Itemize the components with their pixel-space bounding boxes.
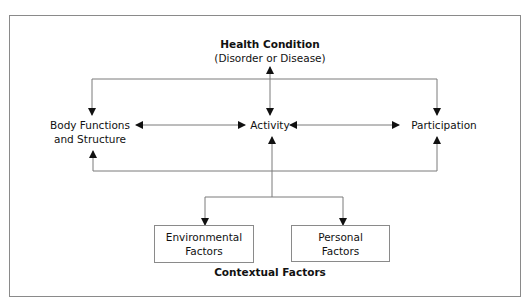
personal-factors-line1: Personal bbox=[318, 230, 363, 244]
health-condition-subtitle: (Disorder or Disease) bbox=[200, 51, 340, 65]
body-functions-label-line1: Body Functions bbox=[40, 118, 140, 132]
environmental-factors-line1: Environmental bbox=[166, 230, 242, 244]
personal-factors-line2: Factors bbox=[322, 244, 360, 258]
participation-label: Participation bbox=[404, 118, 484, 132]
body-functions-label-line2: and Structure bbox=[40, 132, 140, 146]
environmental-factors-box: Environmental Factors bbox=[154, 225, 254, 263]
personal-factors-box: Personal Factors bbox=[291, 225, 390, 262]
contextual-factors-title: Contextual Factors bbox=[200, 265, 340, 279]
health-condition-title: Health Condition bbox=[200, 37, 340, 51]
activity-label: Activity bbox=[244, 118, 296, 132]
environmental-factors-line2: Factors bbox=[185, 244, 223, 258]
